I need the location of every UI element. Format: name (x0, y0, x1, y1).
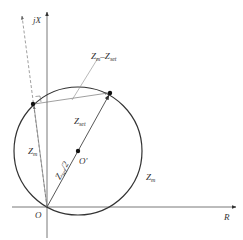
r-axis-label: R (223, 212, 230, 222)
circle-center-point (76, 149, 80, 153)
z-m-endpoint (31, 102, 35, 106)
z-set-half-label: Zset/2 (53, 159, 72, 181)
z-set-vector-label: Zset (74, 116, 86, 127)
origin-label: O (35, 210, 42, 220)
label-leader-line (72, 58, 98, 100)
z-diff-vector-label: Zm–Zset (91, 51, 117, 62)
z-diff-vector (34, 93, 108, 104)
z-m-vector-label: Zm (28, 146, 38, 157)
circle-center-label: O' (79, 156, 88, 166)
z-set-endpoint (108, 91, 112, 95)
jx-axis-label: jX (32, 15, 42, 25)
circle-boundary-label: Zm (146, 172, 156, 183)
impedance-circle-diagram: jX R O O' Zm Zm Zset Zset/2 Zm–Zset (0, 0, 243, 240)
